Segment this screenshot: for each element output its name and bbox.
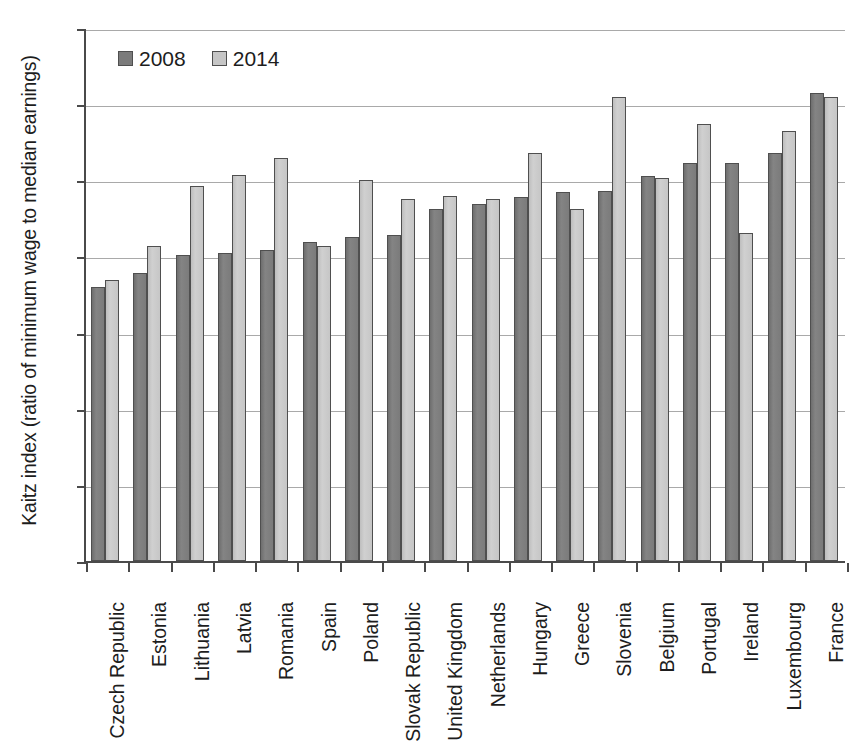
- x-tick-mark: [805, 563, 807, 572]
- x-axis-label-estonia: Estonia: [150, 602, 170, 667]
- bar-2008-united-kingdom: [429, 209, 443, 561]
- bar-2014-netherlands: [486, 199, 500, 561]
- x-tick-mark: [213, 563, 215, 572]
- x-axis-label-czech-republic: Czech Republic: [108, 602, 128, 739]
- bar-2014-france: [824, 97, 838, 561]
- bar-2008-estonia: [133, 273, 147, 561]
- x-tick-mark: [467, 563, 469, 572]
- legend-label-2014: 2014: [233, 48, 280, 69]
- plot-area: 010203040506070 Czech RepublicEstoniaLit…: [84, 30, 845, 563]
- bars-layer: [86, 30, 845, 561]
- x-axis-label-ireland: Ireland: [742, 602, 762, 662]
- y-tick-mark: [77, 334, 86, 336]
- y-tick-mark: [77, 29, 86, 31]
- bar-2014-slovenia: [612, 97, 626, 561]
- x-tick-mark: [128, 563, 130, 572]
- x-axis-label-belgium: Belgium: [658, 602, 678, 672]
- y-tick-mark: [77, 105, 86, 107]
- bar-2008-belgium: [641, 176, 655, 561]
- y-tick-mark: [77, 486, 86, 488]
- bar-2014-hungary: [528, 153, 542, 561]
- y-tick-mark: [77, 257, 86, 259]
- bar-2014-greece: [570, 209, 584, 561]
- bar-2014-lithuania: [190, 186, 204, 561]
- bar-2014-luxembourg: [782, 131, 796, 561]
- x-axis-label-lithuania: Lithuania: [193, 602, 213, 681]
- bar-2008-romania: [260, 250, 274, 561]
- bar-2008-portugal: [683, 163, 697, 561]
- bar-2008-france: [810, 93, 824, 561]
- y-tick-mark: [77, 181, 86, 183]
- x-tick-mark: [720, 563, 722, 572]
- bar-2014-united-kingdom: [443, 196, 457, 561]
- bar-2014-ireland: [739, 233, 753, 561]
- x-axis-label-france: France: [827, 602, 847, 663]
- x-axis-label-latvia: Latvia: [235, 602, 255, 654]
- bar-2014-poland: [359, 180, 373, 561]
- bar-2014-czech-republic: [105, 280, 119, 561]
- legend-swatch-2008-icon: [118, 51, 133, 66]
- bar-2008-spain: [303, 242, 317, 561]
- x-tick-mark: [636, 563, 638, 572]
- bar-2014-belgium: [655, 178, 669, 561]
- legend-item-2008[interactable]: 2008: [118, 48, 186, 69]
- x-tick-mark: [509, 563, 511, 572]
- x-tick-mark: [382, 563, 384, 572]
- x-axis-label-hungary: Hungary: [531, 602, 551, 676]
- x-axis-label-united-kingdom: United Kingdom: [446, 602, 466, 741]
- y-axis-title: Kaitz index (ratio of minimum wage to me…: [12, 3, 46, 578]
- x-tick-mark: [551, 563, 553, 572]
- x-tick-mark: [255, 563, 257, 572]
- x-axis-label-poland: Poland: [362, 602, 382, 663]
- bar-2008-greece: [556, 192, 570, 561]
- x-axis-label-greece: Greece: [573, 602, 593, 666]
- y-tick-mark: [77, 562, 86, 564]
- bar-2014-estonia: [147, 246, 161, 561]
- x-axis-label-romania: Romania: [277, 602, 297, 680]
- x-tick-mark: [424, 563, 426, 572]
- bar-2014-portugal: [697, 124, 711, 561]
- bar-2014-slovak-republic: [401, 199, 415, 561]
- kaitz-index-bar-chart: Kaitz index (ratio of minimum wage to me…: [0, 0, 864, 741]
- x-tick-mark: [762, 563, 764, 572]
- bar-2014-spain: [317, 246, 331, 561]
- bar-2008-czech-republic: [91, 287, 105, 561]
- x-tick-mark: [847, 563, 849, 572]
- bar-2008-ireland: [725, 163, 739, 561]
- x-tick-mark: [297, 563, 299, 572]
- x-axis-label-spain: Spain: [320, 602, 340, 652]
- bar-2008-slovak-republic: [387, 235, 401, 561]
- x-axis-label-slovenia: Slovenia: [615, 602, 635, 677]
- bar-2008-slovenia: [598, 191, 612, 561]
- legend-swatch-2014-icon: [212, 51, 227, 66]
- x-axis-label-portugal: Portugal: [700, 602, 720, 675]
- bar-2014-romania: [274, 158, 288, 561]
- x-tick-mark: [593, 563, 595, 572]
- x-axis-label-luxembourg: Luxembourg: [785, 602, 805, 710]
- y-tick-mark: [77, 410, 86, 412]
- x-tick-mark: [171, 563, 173, 572]
- x-tick-mark: [340, 563, 342, 572]
- x-tick-mark: [678, 563, 680, 572]
- bar-2008-lithuania: [176, 255, 190, 561]
- bar-2008-poland: [345, 237, 359, 561]
- x-axis-label-netherlands: Netherlands: [489, 602, 509, 707]
- bar-2008-luxembourg: [768, 153, 782, 561]
- x-tick-mark: [86, 563, 88, 572]
- bar-2014-latvia: [232, 175, 246, 561]
- legend-item-2014[interactable]: 2014: [212, 48, 280, 69]
- chart-legend: 2008 2014: [118, 48, 279, 69]
- bar-2008-latvia: [218, 253, 232, 561]
- legend-label-2008: 2008: [139, 48, 186, 69]
- x-axis-label-slovak-republic: Slovak Republic: [404, 602, 424, 741]
- bar-2008-hungary: [514, 197, 528, 561]
- bar-2008-netherlands: [472, 204, 486, 561]
